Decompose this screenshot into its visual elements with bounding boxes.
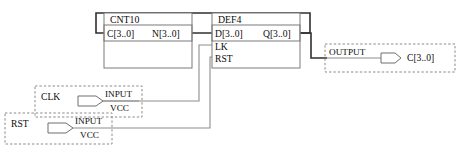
pin-rst-default-label: VCC: [80, 131, 99, 140]
block-def4-port-lk[interactable]: LK: [215, 42, 228, 52]
block-def4-port-q[interactable]: Q[3..0]: [263, 29, 291, 39]
schematic-canvas: CNT10 C[3..0] N[3..0] DEF4 D[3..0] Q[3..…: [0, 0, 461, 155]
pin-clk-net-label[interactable]: CLK: [41, 92, 60, 102]
block-def4-port-d[interactable]: D[3..0]: [215, 29, 243, 39]
pin-output-type-label: OUTPUT: [329, 48, 365, 57]
output-pin-symbol: [381, 53, 401, 63]
input-pin-symbol-rst: [48, 123, 73, 133]
block-cnt10-port-c[interactable]: C[3..0]: [107, 29, 134, 39]
pin-output-net-label[interactable]: C[3..0]: [407, 53, 434, 63]
wire-q-to-output: [300, 33, 327, 58]
block-def4-port-rst[interactable]: RST: [215, 54, 233, 64]
pin-rst-net-label[interactable]: RST: [11, 119, 29, 129]
block-cnt10-port-n[interactable]: N[3..0]: [152, 29, 180, 39]
block-cnt10-name: CNT10: [110, 15, 139, 25]
input-pin-symbol-clk: [78, 96, 103, 106]
pin-rst-type-label: INPUT: [75, 117, 102, 126]
block-def4-name: DEF4: [218, 15, 241, 25]
pin-clk-type-label: INPUT: [105, 90, 132, 99]
pin-clk-default-label: VCC: [110, 104, 129, 113]
